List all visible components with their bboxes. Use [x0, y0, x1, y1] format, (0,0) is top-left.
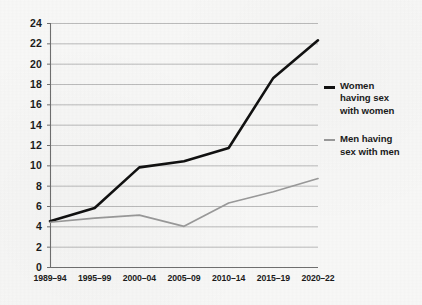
x-tick-label: 2000–04 — [115, 273, 163, 283]
x-tick-label: 1995–99 — [71, 273, 119, 283]
y-tick-label: 18 — [16, 78, 42, 90]
line-chart: 024681012141618202224 1989–941995–992000… — [0, 0, 422, 305]
y-tick-label: 0 — [16, 261, 42, 273]
y-tick-label: 20 — [16, 58, 42, 70]
chart-legend: Womenhaving sexwith women Men havingsex … — [324, 80, 420, 174]
y-tick-label: 4 — [16, 220, 42, 232]
y-tick-label: 6 — [16, 200, 42, 212]
y-tick-label: 24 — [16, 17, 42, 29]
legend-item-men: Men havingsex with men — [324, 133, 420, 158]
y-tick-label: 14 — [16, 119, 42, 131]
legend-line-swatch-men-icon — [324, 139, 335, 141]
x-tick-label: 2010–14 — [205, 273, 253, 283]
y-tick-label: 12 — [16, 139, 42, 151]
y-tick-label: 22 — [16, 37, 42, 49]
y-tick-label: 8 — [16, 180, 42, 192]
x-tick-label: 2020–22 — [294, 273, 342, 283]
x-tick-label: 2005–09 — [160, 273, 208, 283]
y-tick-label: 10 — [16, 159, 42, 171]
x-tick-label: 2015–19 — [249, 273, 297, 283]
legend-line-swatch-women-icon — [324, 86, 335, 89]
y-tick-label: 2 — [16, 241, 42, 253]
series-line-women — [50, 40, 318, 221]
y-tick-label: 16 — [16, 98, 42, 110]
legend-item-women: Womenhaving sexwith women — [324, 80, 420, 117]
x-tick-label: 1989–94 — [26, 273, 74, 283]
legend-label-men: Men havingsex with men — [340, 133, 400, 158]
legend-label-women: Womenhaving sexwith women — [340, 80, 394, 117]
